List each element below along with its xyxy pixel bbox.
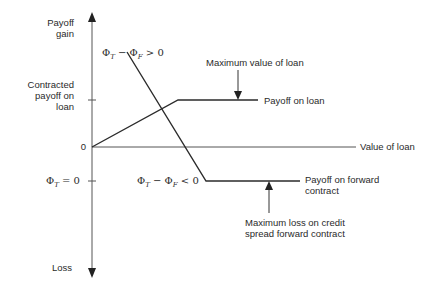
payoff-forward-label: Payoff on forwardcontract [305,174,379,196]
payoff-loan-label: Payoff on loan [264,95,325,106]
value-of-loan-label: Value of loan [360,141,415,152]
y-axis-down-arrow-icon [88,268,96,278]
max-loss-forward-label: Maximum loss on creditspread forward con… [245,217,345,239]
up-arrow-icon [265,181,273,190]
loss-label: Loss [52,262,72,273]
positive-spread-label: ΦT − ΦF > 0 [102,47,164,63]
forward-payoff-line [127,52,300,181]
loan-payoff-line [92,100,258,147]
max-value-loan-label: Maximum value of loan [206,57,304,68]
negative-spread-label: ΦT − ΦF < 0 [137,175,199,191]
contracted-payoff-label: Contractedpayoff onloan [28,79,74,112]
y-axis-up-arrow-icon [88,12,96,22]
origin-label: 0 [81,141,86,152]
y-axis-top-label: Payoffgain [47,17,74,39]
down-arrow-icon [234,91,242,100]
phi-zero-label: ΦT = 0 [46,175,80,191]
